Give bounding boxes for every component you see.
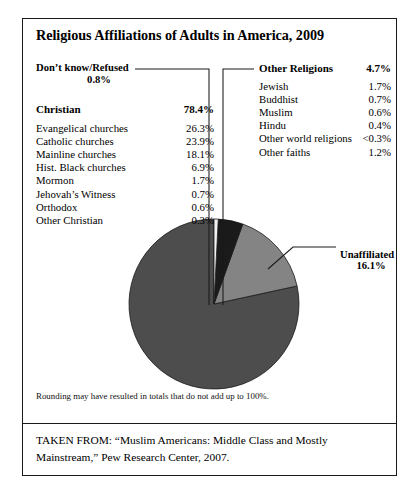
row-label: Buddhist — [259, 93, 352, 106]
divider — [23, 423, 397, 424]
table-row-header: Other Religions 4.7% — [259, 62, 391, 80]
callout-unaffiliated: Unaffiliated 16.1% — [340, 249, 397, 271]
table-row: Evangelical churches 26.3% — [36, 122, 214, 135]
row-value: 18.1% — [164, 148, 214, 161]
table-row: Jehovah’s Witness 0.7% — [36, 188, 214, 201]
table-row: Muslim 0.6% — [259, 106, 391, 119]
callout-dont-know-label: Don’t know/Refused — [36, 62, 196, 73]
figure-box: Religious Affiliations of Adults in Amer… — [22, 18, 397, 476]
row-label: Mormon — [36, 174, 164, 187]
table-row: Other Christian 0.3% — [36, 214, 214, 227]
christian-breakdown-table: Christian 78.4% Evangelical churches 26.… — [36, 103, 214, 227]
source-attribution: TAKEN FROM: “Muslim Americans: Middle Cl… — [36, 432, 380, 466]
table-row: Hist. Black churches 6.9% — [36, 161, 214, 174]
row-label: Other world religions — [259, 132, 352, 145]
row-label: Other faiths — [259, 146, 352, 159]
row-label: Jewish — [259, 80, 352, 93]
table-row: Buddhist 0.7% — [259, 93, 391, 106]
other-header-value: 4.7% — [352, 62, 391, 80]
row-value: 0.4% — [352, 119, 391, 132]
callout-dont-know: Don’t know/Refused 0.8% — [36, 62, 196, 85]
row-value: 23.9% — [164, 135, 214, 148]
row-value: 0.7% — [164, 188, 214, 201]
table-row: Hindu 0.4% — [259, 119, 391, 132]
other-religions-breakdown-table: Other Religions 4.7% Jewish 1.7% Buddhis… — [259, 62, 391, 159]
row-value: 0.3% — [164, 214, 214, 227]
table-row: Orthodox 0.6% — [36, 201, 214, 214]
row-value: 1.7% — [164, 174, 214, 187]
row-value: 26.3% — [164, 122, 214, 135]
row-value: 1.7% — [352, 80, 391, 93]
table-row: Other world religions <0.3% — [259, 132, 391, 145]
row-label: Hist. Black churches — [36, 161, 164, 174]
christian-header-label: Christian — [36, 103, 164, 122]
christian-header-value: 78.4% — [164, 103, 214, 122]
callout-unaffiliated-value: 16.1% — [340, 260, 397, 271]
row-value: 6.9% — [164, 161, 214, 174]
table-row-header: Christian 78.4% — [36, 103, 214, 122]
row-label: Evangelical churches — [36, 122, 164, 135]
row-value: 1.2% — [352, 146, 391, 159]
table-row: Mainline churches 18.1% — [36, 148, 214, 161]
row-label: Jehovah’s Witness — [36, 188, 164, 201]
other-header-label: Other Religions — [259, 62, 352, 80]
row-value: <0.3% — [352, 132, 391, 145]
row-value: 0.6% — [352, 106, 391, 119]
row-label: Hindu — [259, 119, 352, 132]
row-value: 0.7% — [352, 93, 391, 106]
callout-unaffiliated-label: Unaffiliated — [340, 249, 397, 260]
row-label: Muslim — [259, 106, 352, 119]
row-label: Catholic churches — [36, 135, 164, 148]
table-row: Other faiths 1.2% — [259, 146, 391, 159]
rounding-footnote: Rounding may have resulted in totals tha… — [36, 391, 376, 401]
row-label: Mainline churches — [36, 148, 164, 161]
row-value: 0.6% — [164, 201, 214, 214]
row-label: Orthodox — [36, 201, 164, 214]
table-row: Jewish 1.7% — [259, 80, 391, 93]
row-label: Other Christian — [36, 214, 164, 227]
table-row: Catholic churches 23.9% — [36, 135, 214, 148]
table-row: Mormon 1.7% — [36, 174, 214, 187]
callout-dont-know-value: 0.8% — [36, 74, 162, 85]
